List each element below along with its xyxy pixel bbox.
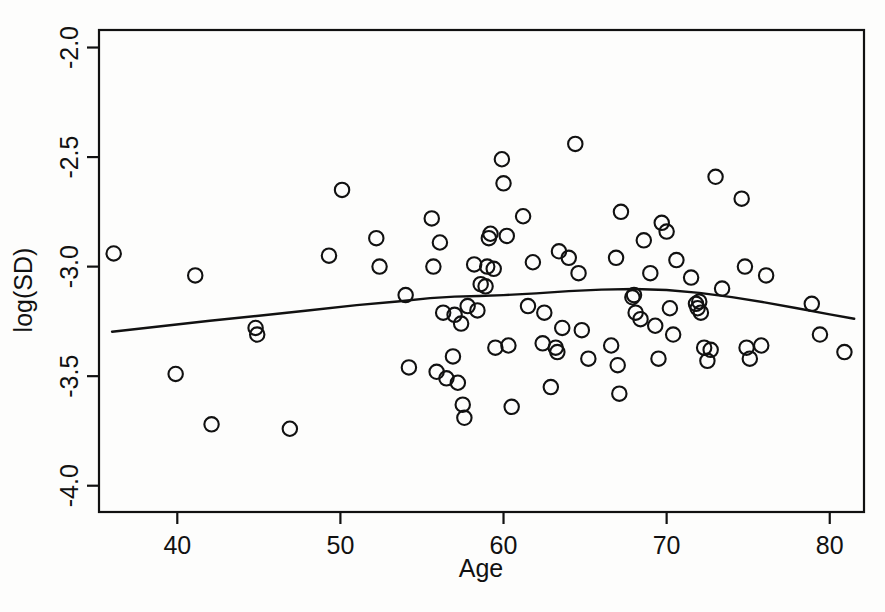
x-tick-label: 70 [653,531,681,559]
x-axis-title: Age [459,554,503,582]
data-point-circle [604,338,618,352]
data-point-circle [612,386,626,400]
data-point-circle [581,351,595,365]
data-point-circle [614,205,628,219]
data-point-circle [501,338,515,352]
x-axis-ticks [177,512,829,524]
data-point-circle [544,380,558,394]
data-point-circle [433,235,447,249]
y-axis-ticks [87,48,99,486]
data-point-circle [575,323,589,337]
data-point-circle [322,248,336,262]
data-point-circle [738,259,752,273]
x-tick-label: 50 [327,531,355,559]
data-point-circle [457,411,471,425]
data-point-circle [813,327,827,341]
x-tick-label: 40 [163,531,191,559]
data-point-circle [488,340,502,354]
data-point-circle [643,266,657,280]
data-point-circle [611,358,625,372]
data-point-circle [283,422,297,436]
scatter-plot: -2.0-2.5-3.0-3.5-4.0 4050607080 Age log(… [0,0,885,612]
data-point-circle [204,417,218,431]
data-point-circle [715,281,729,295]
data-point-circle [372,259,386,273]
data-point-circle [496,176,510,190]
data-point-circle [734,192,748,206]
x-axis-tick-labels: 4050607080 [163,531,843,559]
data-point-circle [521,299,535,313]
chart-container: -2.0-2.5-3.0-3.5-4.0 4050607080 Age log(… [0,0,885,612]
data-point-circle [106,246,120,260]
y-tick-label: -3.0 [55,245,83,288]
data-point-circle [754,338,768,352]
data-point-circle [655,216,669,230]
data-point-circle [188,268,202,282]
data-point-circle [663,301,677,315]
data-point-circle [609,251,623,265]
data-point-circle [537,305,551,319]
data-point-circle [504,400,518,414]
x-tick-label: 80 [816,531,844,559]
data-point-circle [651,351,665,365]
data-point-circle [369,231,383,245]
data-point-circle [478,279,492,293]
data-point-circle [666,327,680,341]
y-tick-label: -2.0 [55,26,83,69]
data-point-circle [659,224,673,238]
data-point-circle [571,266,585,280]
y-tick-label: -2.5 [55,136,83,179]
y-tick-label: -4.0 [55,464,83,507]
data-point-circle [837,345,851,359]
data-point-circle [500,229,514,243]
data-point-circle [426,259,440,273]
data-point-circle [759,268,773,282]
data-point-circle [495,152,509,166]
y-axis-title: log(SD) [9,248,37,333]
data-point-circle [648,319,662,333]
data-points [106,137,851,436]
data-point-circle [555,321,569,335]
y-tick-label: -3.5 [55,355,83,398]
data-point-circle [708,170,722,184]
data-point-circle [425,211,439,225]
data-point-circle [335,183,349,197]
data-point-circle [516,209,530,223]
data-point-circle [446,349,460,363]
data-point-circle [467,257,481,271]
data-point-circle [568,137,582,151]
data-point-circle [669,253,683,267]
data-point-circle [526,255,540,269]
data-point-circle [168,367,182,381]
data-point-circle [402,360,416,374]
y-axis-tick-labels: -2.0-2.5-3.0-3.5-4.0 [55,26,83,507]
data-point-circle [637,233,651,247]
data-point-circle [456,397,470,411]
data-point-circle [684,270,698,284]
loess-smoother-line [112,289,854,332]
